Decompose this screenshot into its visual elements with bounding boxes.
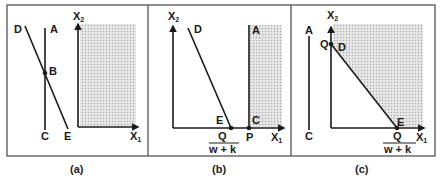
- point-e-dot: [229, 126, 234, 131]
- point-b-dot: [43, 71, 48, 76]
- label-e: E: [216, 114, 223, 126]
- label-d: D: [194, 23, 202, 35]
- label-q: Q: [320, 38, 329, 50]
- label-c: C: [305, 130, 313, 142]
- caption-a: (a): [70, 163, 84, 175]
- label-b: B: [49, 65, 57, 77]
- y-axis-label: X2: [327, 9, 338, 22]
- label-a: A: [252, 24, 260, 36]
- point-c-dot: [247, 126, 252, 131]
- caption-b: (b): [212, 163, 226, 175]
- label-d: D: [14, 23, 22, 35]
- label-a: A: [305, 24, 313, 36]
- panel-c: A C Q D E X2 X1 Q w + k (c): [305, 9, 427, 175]
- label-p: P: [246, 131, 253, 143]
- fraction-denominator: w + k: [208, 143, 237, 155]
- line-de: [25, 26, 68, 129]
- label-c: C: [252, 114, 260, 126]
- fraction-denominator: w + k: [383, 143, 412, 155]
- line-de: [188, 28, 231, 128]
- y-axis-label: X2: [73, 10, 84, 23]
- x-axis-label: X1: [130, 130, 141, 143]
- x-axis-label: X1: [271, 131, 282, 144]
- fraction-numerator: Q: [218, 130, 227, 142]
- feasible-region-shade: [333, 24, 423, 127]
- panel-b: D A E C P X2 X1 Q w + k (b): [168, 10, 284, 175]
- y-axis-label: X2: [168, 10, 179, 23]
- x-axis-label: X1: [416, 131, 427, 144]
- label-e: E: [64, 130, 71, 142]
- caption-c: (c): [355, 163, 369, 175]
- point-q-dot: [329, 42, 334, 47]
- fraction-numerator: Q: [393, 130, 402, 142]
- label-a: A: [50, 23, 58, 35]
- label-d: D: [338, 41, 346, 53]
- label-e: E: [397, 116, 404, 128]
- panel-a: D A B C E X2 X1 (a): [14, 10, 141, 175]
- fraction-q-over-w-plus-k: Q w + k: [383, 130, 416, 155]
- diagram-canvas: D A B C E X2 X1 (a) D A E C P X2 X1 Q w …: [0, 0, 441, 180]
- feasible-region-shade: [80, 24, 136, 126]
- feasible-region-shade: [250, 25, 282, 127]
- fraction-q-over-w-plus-k: Q w + k: [208, 130, 239, 155]
- label-c: C: [41, 130, 49, 142]
